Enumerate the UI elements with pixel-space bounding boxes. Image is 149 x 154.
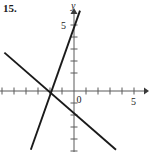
x-axis-tick-label-5: 5 <box>131 96 136 107</box>
x-axis-arrow-icon <box>144 88 149 95</box>
figure-container: 15. <box>0 0 149 154</box>
y-axis-label: y <box>70 0 76 11</box>
y-axis-tick-label-5: 5 <box>61 20 66 31</box>
graph-line-steep <box>31 11 80 150</box>
coordinate-graph: y 0 5 5 <box>0 0 149 154</box>
origin-label: 0 <box>77 94 82 105</box>
